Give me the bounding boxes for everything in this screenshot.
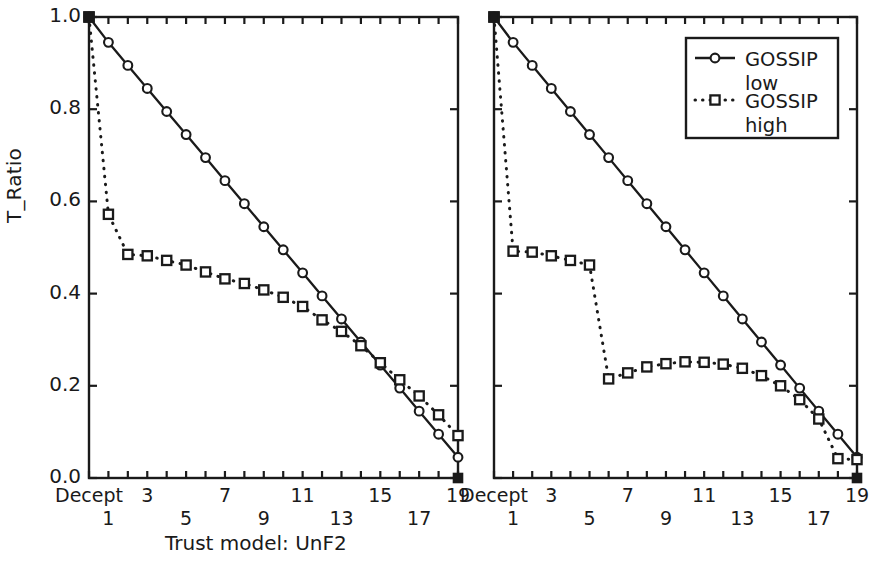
data-point-marker — [240, 279, 249, 288]
x-tick-label-lower: 5 — [583, 507, 595, 529]
data-point-marker — [201, 153, 210, 162]
data-point-marker — [585, 130, 594, 139]
data-point-marker — [833, 454, 842, 463]
x-tick-label-upper: Decept — [460, 484, 528, 506]
data-point-marker — [642, 362, 651, 371]
x-tick-label-lower: 13 — [730, 507, 754, 529]
legend-label-2-line1: GOSSIP — [745, 90, 818, 113]
data-point-marker — [814, 414, 823, 423]
data-point-marker — [662, 222, 671, 231]
data-point-marker — [795, 395, 804, 404]
data-point-marker — [604, 374, 613, 383]
data-point-marker — [757, 371, 766, 380]
data-point-marker — [566, 256, 575, 265]
data-point-marker — [376, 358, 385, 367]
data-point-marker — [259, 285, 268, 294]
x-tick-label-upper: 11 — [291, 484, 315, 506]
data-point-marker — [623, 368, 632, 377]
data-point-marker — [566, 107, 575, 116]
data-point-marker — [279, 293, 288, 302]
data-point-marker — [434, 430, 443, 439]
data-point-marker — [162, 256, 171, 265]
data-point-marker — [738, 364, 747, 373]
data-point-marker — [661, 359, 670, 368]
data-point-marker — [415, 391, 424, 400]
data-point-marker — [395, 375, 404, 384]
data-point-marker — [123, 61, 132, 70]
end-marker — [454, 474, 462, 482]
data-point-marker — [454, 453, 463, 462]
data-point-marker — [776, 381, 785, 390]
data-point-marker — [143, 84, 152, 93]
x-axis-title-left: Trust model: UnF2 — [165, 531, 347, 555]
data-point-marker — [604, 153, 613, 162]
data-point-marker — [434, 410, 443, 419]
x-tick-label-lower: 1 — [507, 507, 519, 529]
end-marker — [853, 474, 861, 482]
data-point-marker — [221, 176, 230, 185]
figure-root: T_Ratio Trust model: UnF2 0.00.20.40.60.… — [0, 0, 869, 570]
data-point-marker — [318, 292, 327, 301]
data-point-marker — [298, 268, 307, 277]
series-line-2 — [89, 17, 458, 436]
x-tick-label-upper: 3 — [141, 484, 153, 506]
data-point-marker — [623, 176, 632, 185]
data-point-marker — [719, 292, 728, 301]
data-point-marker — [528, 248, 537, 257]
x-tick-label-lower: 17 — [407, 507, 431, 529]
plot-svg-right: GOSSIPlowGOSSIPhigh — [470, 0, 869, 570]
data-point-marker — [182, 130, 191, 139]
data-point-marker — [852, 455, 861, 464]
data-point-marker — [681, 245, 690, 254]
data-point-marker — [356, 341, 365, 350]
x-tick-label-upper: 19 — [845, 484, 869, 506]
data-point-marker — [104, 38, 113, 47]
data-point-marker — [738, 315, 747, 324]
x-tick-label-upper: 7 — [622, 484, 634, 506]
legend: GOSSIPlowGOSSIPhigh — [686, 38, 838, 138]
x-tick-label-upper: 7 — [219, 484, 231, 506]
y-tick-label: 0.4 — [21, 280, 81, 304]
x-tick-label-lower: 9 — [660, 507, 672, 529]
origin-marker — [84, 12, 93, 21]
x-tick-label-lower: 13 — [329, 507, 353, 529]
x-tick-label-upper: 15 — [368, 484, 392, 506]
x-tick-label-lower: 1 — [102, 507, 114, 529]
data-point-marker — [547, 84, 556, 93]
data-point-marker — [337, 327, 346, 336]
data-point-marker — [719, 360, 728, 369]
data-point-marker — [795, 384, 804, 393]
legend-sample-square-icon — [710, 95, 719, 104]
data-point-marker — [585, 260, 594, 269]
y-tick-label: 0.8 — [21, 95, 81, 119]
data-point-marker — [240, 199, 249, 208]
data-point-marker — [833, 430, 842, 439]
data-point-marker — [104, 210, 113, 219]
data-point-marker — [453, 431, 462, 440]
data-point-marker — [700, 358, 709, 367]
x-tick-label-lower: 9 — [258, 507, 270, 529]
data-point-marker — [700, 268, 709, 277]
data-point-marker — [220, 274, 229, 283]
data-point-marker — [528, 61, 537, 70]
data-point-marker — [547, 251, 556, 260]
x-tick-label-lower: 17 — [807, 507, 831, 529]
y-tick-label: 1.0 — [21, 3, 81, 27]
data-point-marker — [143, 251, 152, 260]
data-point-marker — [201, 267, 210, 276]
data-point-marker — [415, 407, 424, 416]
legend-label-2-line2: high — [745, 114, 788, 137]
data-point-marker — [317, 315, 326, 324]
data-point-marker — [680, 357, 689, 366]
data-point-marker — [279, 245, 288, 254]
legend-label-1-line1: GOSSIP — [745, 48, 818, 71]
data-point-marker — [509, 38, 518, 47]
x-tick-label-upper: 3 — [545, 484, 557, 506]
data-point-marker — [259, 222, 268, 231]
x-tick-label-upper: 15 — [768, 484, 792, 506]
chart-panel-unf1: GOSSIPlowGOSSIPhigh Trust model: UnF1 De… — [470, 0, 869, 570]
legend-sample-circle-icon — [711, 54, 720, 63]
data-point-marker — [642, 199, 651, 208]
x-tick-label-upper: Decept — [55, 484, 123, 506]
chart-panel-unf2: T_Ratio Trust model: UnF2 0.00.20.40.60.… — [0, 0, 470, 570]
